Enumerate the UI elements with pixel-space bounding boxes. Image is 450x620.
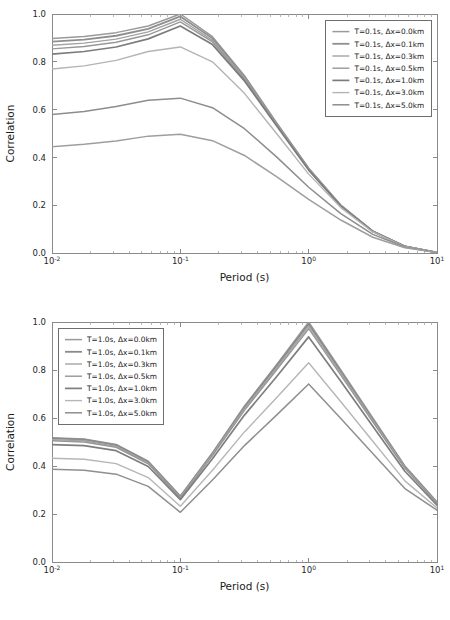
y-tick-label: 0.0 <box>32 557 46 567</box>
legend-label-4: T=0.1s, Δx=1.0km <box>353 76 424 85</box>
legend-label-2: T=0.1s, Δx=0.3km <box>353 52 424 61</box>
chart-top-canvas: 10-210-11001010.00.20.40.60.81.0Period (… <box>0 0 450 300</box>
y-tick-label: 1.0 <box>32 317 46 327</box>
y-tick-label: 0.6 <box>32 413 46 423</box>
y-axis-title: Correlation <box>4 105 16 163</box>
y-tick-label: 0.8 <box>32 365 46 375</box>
y-tick-label: 0.6 <box>32 105 46 115</box>
legend-label-5: T=1.0s, Δx=3.0km <box>86 396 157 405</box>
y-tick-label: 1.0 <box>32 9 46 19</box>
legend-label-2: T=1.0s, Δx=0.3km <box>86 360 157 369</box>
legend: T=1.0s, Δx=0.0kmT=1.0s, Δx=0.1kmT=1.0s, … <box>58 328 164 424</box>
y-tick-label: 0.2 <box>32 509 46 519</box>
legend-label-5: T=0.1s, Δx=3.0km <box>353 88 424 97</box>
chart-bottom: 10-210-11001010.00.20.40.60.81.0Period (… <box>0 300 450 620</box>
y-tick-label: 0.0 <box>32 248 46 258</box>
legend-label-3: T=1.0s, Δx=0.5km <box>86 372 157 381</box>
legend-label-3: T=0.1s, Δx=0.5km <box>353 64 424 73</box>
x-axis-title: Period (s) <box>220 580 270 592</box>
chart-top: 10-210-11001010.00.20.40.60.81.0Period (… <box>0 0 450 300</box>
y-tick-label: 0.4 <box>32 461 46 471</box>
y-axis-title: Correlation <box>4 413 16 471</box>
x-tick-label: 10-1 <box>172 255 189 266</box>
x-tick-label: 100 <box>301 564 316 575</box>
x-tick-label: 101 <box>430 255 445 266</box>
legend-label-0: T=0.1s, Δx=0.0km <box>353 27 424 36</box>
x-tick-label: 101 <box>430 564 445 575</box>
x-axis-title: Period (s) <box>220 271 270 283</box>
legend: T=0.1s, Δx=0.0kmT=0.1s, Δx=0.1kmT=0.1s, … <box>325 20 431 116</box>
y-tick-label: 0.8 <box>32 57 46 67</box>
x-tick-label: 100 <box>301 255 316 266</box>
figure-page: 10-210-11001010.00.20.40.60.81.0Period (… <box>0 0 450 620</box>
x-tick-label: 10-2 <box>44 255 61 266</box>
legend-label-1: T=1.0s, Δx=0.1km <box>86 348 157 357</box>
legend-label-6: T=1.0s, Δx=5.0km <box>86 409 157 418</box>
legend-label-6: T=0.1s, Δx=5.0km <box>353 101 424 110</box>
y-tick-label: 0.4 <box>32 153 46 163</box>
x-tick-label: 10-1 <box>172 564 189 575</box>
chart-bottom-canvas: 10-210-11001010.00.20.40.60.81.0Period (… <box>0 300 450 620</box>
x-tick-label: 10-2 <box>44 564 61 575</box>
legend-label-1: T=0.1s, Δx=0.1km <box>353 40 424 49</box>
legend-label-0: T=1.0s, Δx=0.0km <box>86 335 157 344</box>
legend-label-4: T=1.0s, Δx=1.0km <box>86 384 157 393</box>
y-tick-label: 0.2 <box>32 200 46 210</box>
